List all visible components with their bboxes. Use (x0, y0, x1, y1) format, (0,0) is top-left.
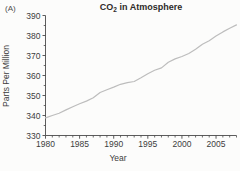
co2-line-chart: 3303403503603703803901980198519901995200… (0, 0, 240, 171)
x-tick-label: 2000 (172, 139, 191, 149)
y-tick-label: 350 (26, 91, 40, 101)
y-tick-label: 360 (26, 71, 40, 81)
x-tick-label: 1990 (104, 139, 123, 149)
y-tick-label: 340 (26, 111, 40, 121)
x-tick-label: 1995 (138, 139, 157, 149)
x-tick-label: 2005 (207, 139, 226, 149)
y-tick-label: 390 (26, 11, 40, 21)
y-tick-label: 380 (26, 31, 40, 41)
x-tick-label: 1980 (36, 139, 55, 149)
x-tick-label: 1985 (70, 139, 89, 149)
co2-chart-figure: (A) CO2 in Atmosphere Parts Per Million … (0, 0, 240, 171)
y-tick-label: 370 (26, 51, 40, 61)
x-axis-label: Year (88, 153, 148, 163)
co2-data-line (46, 25, 237, 118)
